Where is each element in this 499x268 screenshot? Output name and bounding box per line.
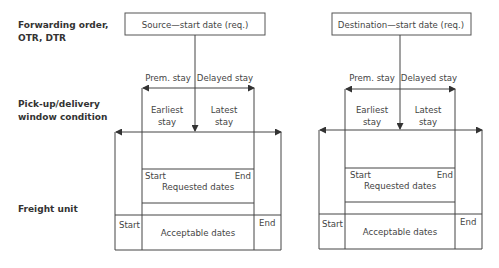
earliest-stay-label: Earliest: [151, 105, 184, 115]
source-diagram: Source—start date (req.) Prem. stay Dela…: [115, 13, 281, 250]
latest-stay-label: stay: [419, 117, 437, 127]
acceptable-start-label: Start: [322, 219, 344, 229]
acceptable-start-label: Start: [119, 220, 141, 230]
earliest-stay-label: stay: [158, 117, 176, 127]
requested-dates-label: Requested dates: [364, 181, 437, 191]
requested-start-label: Start: [350, 170, 372, 180]
acceptable-dates-label: Acceptable dates: [363, 227, 438, 237]
acceptable-end-label: End: [460, 217, 476, 227]
requested-end-label: End: [437, 170, 453, 180]
requested-start-label: Start: [145, 171, 167, 181]
latest-stay-label: Latest: [211, 105, 238, 115]
source-title: Source—start date (req.): [142, 20, 249, 30]
earliest-stay-label: Earliest: [356, 105, 389, 115]
latest-stay-label: stay: [215, 117, 233, 127]
earliest-stay-label: stay: [363, 117, 381, 127]
acceptable-end-label: End: [259, 218, 275, 228]
destination-diagram: Destination—start date (req.) Prem. stay…: [319, 13, 482, 249]
diagram-canvas: Source—start date (req.) Prem. stay Dela…: [0, 0, 499, 268]
prem-stay-label: Prem. stay: [145, 73, 191, 83]
requested-end-label: End: [235, 171, 251, 181]
destination-title: Destination—start date (req.): [338, 20, 464, 30]
acceptable-dates-label: Acceptable dates: [161, 228, 236, 238]
delayed-stay-label: Delayed stay: [401, 73, 457, 83]
delayed-stay-label: Delayed stay: [197, 73, 253, 83]
latest-stay-label: Latest: [415, 105, 442, 115]
requested-dates-label: Requested dates: [162, 182, 235, 192]
prem-stay-label: Prem. stay: [349, 73, 395, 83]
